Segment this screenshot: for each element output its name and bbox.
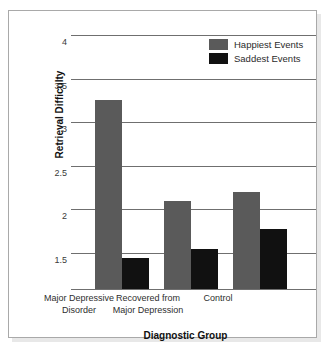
y-tick-label-3: 3 <box>62 124 67 134</box>
legend-swatch-icon-saddest <box>209 53 228 64</box>
legend-label-happiest: Happiest Events <box>234 39 303 50</box>
y-tick-label-3-5: 3.5 <box>54 81 67 91</box>
bar-happiest-major-depressive-disorder <box>95 100 122 289</box>
bar-saddest-major-depressive-disorder <box>122 258 149 289</box>
x-axis-title: Diagnostic Group <box>63 330 308 341</box>
legend-swatch-icon-happiest <box>209 39 228 50</box>
bar-happiest-recovered-from-major-depression <box>164 201 191 289</box>
bar-saddest-control <box>260 229 287 289</box>
bar-saddest-recovered-from-major-depression <box>191 249 218 289</box>
legend-item-happiest-events: Happiest Events <box>209 39 303 50</box>
legend-label-saddest: Saddest Events <box>234 53 301 64</box>
chart-figure: Happiest Events Saddest Events Retrieval… <box>0 0 329 349</box>
legend-item-saddest-events: Saddest Events <box>209 53 303 64</box>
y-tick-label-1-5: 1.5 <box>54 255 67 265</box>
gridline-3-5: 3.5 <box>71 79 316 80</box>
bar-happiest-control <box>233 192 260 289</box>
x-axis-label-control: Control <box>174 293 262 305</box>
plot-area: 4 3.5 3 2.5 2 1.5 <box>71 35 316 289</box>
figure-frame: Happiest Events Saddest Events Retrieval… <box>8 10 317 338</box>
x-label-line-1: Control <box>174 293 262 305</box>
chart-legend: Happiest Events Saddest Events <box>209 39 303 67</box>
y-tick-label-4: 4 <box>62 37 67 47</box>
gridline-4: 4 <box>71 35 316 36</box>
x-label-line-2: Major Depression <box>100 305 196 317</box>
y-tick-label-2: 2 <box>62 211 67 221</box>
y-tick-label-2-5: 2.5 <box>54 168 67 178</box>
x-axis-line <box>71 289 316 290</box>
